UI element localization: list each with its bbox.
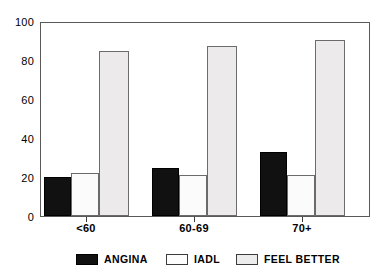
y-tick-label-0: 0 bbox=[4, 212, 34, 223]
bar-feelbetter-60-69 bbox=[207, 46, 237, 216]
chart-legend: ANGINA IADL FEEL BETTER bbox=[0, 252, 386, 272]
bar-feelbetter-lt60 bbox=[99, 51, 129, 216]
y-tick-label-40: 40 bbox=[4, 134, 34, 145]
y-tick-label-80: 80 bbox=[4, 56, 34, 67]
legend-item-angina: ANGINA bbox=[76, 252, 148, 266]
bar-angina-60-69 bbox=[152, 168, 179, 216]
legend-label-feelbetter: FEEL BETTER bbox=[264, 254, 340, 265]
y-tick-label-100: 100 bbox=[4, 17, 34, 28]
legend-swatch-feelbetter-icon bbox=[236, 254, 258, 265]
legend-swatch-iadl-icon bbox=[166, 254, 188, 265]
x-tick-label-70plus: 70+ bbox=[292, 222, 312, 235]
bar-iadl-lt60 bbox=[71, 173, 99, 216]
plot-area bbox=[40, 22, 370, 217]
legend-item-feelbetter: FEEL BETTER bbox=[236, 252, 340, 266]
x-tick-label-60-69: 60-69 bbox=[179, 222, 209, 235]
legend-label-angina: ANGINA bbox=[104, 254, 148, 265]
y-tick-label-20: 20 bbox=[4, 173, 34, 184]
bar-chart: 100 80 60 40 20 0 <60 60-69 70+ ANGINA bbox=[0, 0, 386, 279]
y-axis: 100 80 60 40 20 0 bbox=[0, 0, 34, 279]
y-tick-label-60: 60 bbox=[4, 95, 34, 106]
bar-angina-lt60 bbox=[44, 177, 71, 216]
legend-swatch-angina-icon bbox=[76, 254, 98, 265]
bar-iadl-70plus bbox=[287, 175, 315, 216]
legend-item-iadl: IADL bbox=[166, 252, 220, 266]
bar-feelbetter-70plus bbox=[315, 40, 345, 216]
bar-angina-70plus bbox=[260, 152, 287, 216]
legend-label-iadl: IADL bbox=[194, 254, 220, 265]
bar-iadl-60-69 bbox=[179, 175, 207, 216]
x-tick-label-lt60: <60 bbox=[76, 222, 96, 235]
